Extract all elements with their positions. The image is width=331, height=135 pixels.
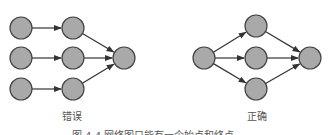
node-circle: [113, 47, 135, 69]
node-circle: [62, 47, 84, 69]
node-circle: [62, 78, 84, 100]
node-circle: [245, 15, 267, 37]
node-circle: [193, 47, 215, 69]
node-circle: [245, 78, 267, 100]
arrow-edge: [266, 64, 300, 84]
arrow-edge: [82, 64, 113, 83]
right-label: 正确: [247, 108, 267, 123]
node-circle: [10, 78, 32, 100]
arrow-edge: [265, 32, 299, 52]
wrong-label: 错误: [62, 108, 82, 123]
network-diagram: [0, 0, 331, 135]
node-circle: [62, 17, 84, 39]
node-circle: [299, 47, 321, 69]
node-circle: [245, 47, 267, 69]
node-circle: [10, 47, 32, 69]
figure-caption: 图 4-4 网络图只能有一个始点和终点: [72, 127, 234, 135]
arrow-edge: [82, 34, 113, 52]
node-circle: [10, 17, 32, 39]
arrow-edge: [213, 64, 245, 83]
arrow-edge: [213, 32, 245, 52]
